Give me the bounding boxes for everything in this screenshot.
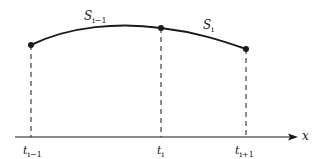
label-s-prev: Si−1: [84, 10, 107, 25]
spline-diagram: Si−1 Si ti−1 ti ti+1 x: [0, 0, 326, 159]
label-base: S: [203, 18, 211, 32]
label-subscript: i: [211, 25, 214, 34]
diagram-graphics: [0, 0, 326, 159]
label-t-prev: ti−1: [23, 145, 42, 159]
knot-point-prev: [28, 42, 34, 48]
label-t-cur: ti: [157, 145, 164, 159]
label-subscript: i: [161, 150, 164, 159]
knot-point-next: [243, 46, 249, 52]
axis-label-x: x: [302, 130, 309, 142]
label-s-cur: Si: [203, 19, 214, 34]
curve-segment-s-prev: [31, 25, 161, 45]
label-t-next: ti+1: [235, 145, 254, 159]
knot-point-cur: [158, 25, 164, 31]
label-base: S: [84, 9, 92, 23]
label-subscript: i−1: [27, 150, 41, 159]
label-subscript: i−1: [92, 16, 106, 25]
label-subscript: i+1: [239, 150, 253, 159]
